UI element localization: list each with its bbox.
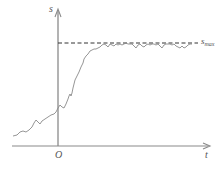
origin-label: O	[55, 150, 62, 160]
chart-canvas	[0, 0, 220, 173]
y-axis-label: s	[49, 4, 53, 14]
smax-label: smax	[201, 37, 215, 47]
smax-subscript: max	[205, 41, 215, 47]
data-curve	[13, 43, 192, 136]
x-axis-label: t	[205, 150, 208, 160]
